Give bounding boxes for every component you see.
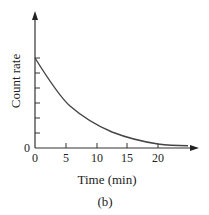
x-axis-arrow-icon xyxy=(190,145,199,151)
y-axis-label: Count rate xyxy=(8,54,24,109)
x-tick-label-10: 10 xyxy=(91,152,103,164)
decay-curve xyxy=(35,58,188,146)
x-tick-label-0: 0 xyxy=(32,152,38,164)
y-axis-arrow-icon xyxy=(32,11,38,20)
figure-caption: (b) xyxy=(97,194,112,210)
x-tick-label-20: 20 xyxy=(152,152,164,164)
x-axis-label: Time (min) xyxy=(77,172,136,188)
x-ticks xyxy=(66,143,158,148)
x-tick-label-5: 5 xyxy=(63,152,69,164)
y-tick-label-0: 0 xyxy=(24,142,30,154)
y-ticks xyxy=(35,58,40,133)
x-tick-label-15: 15 xyxy=(121,152,133,164)
